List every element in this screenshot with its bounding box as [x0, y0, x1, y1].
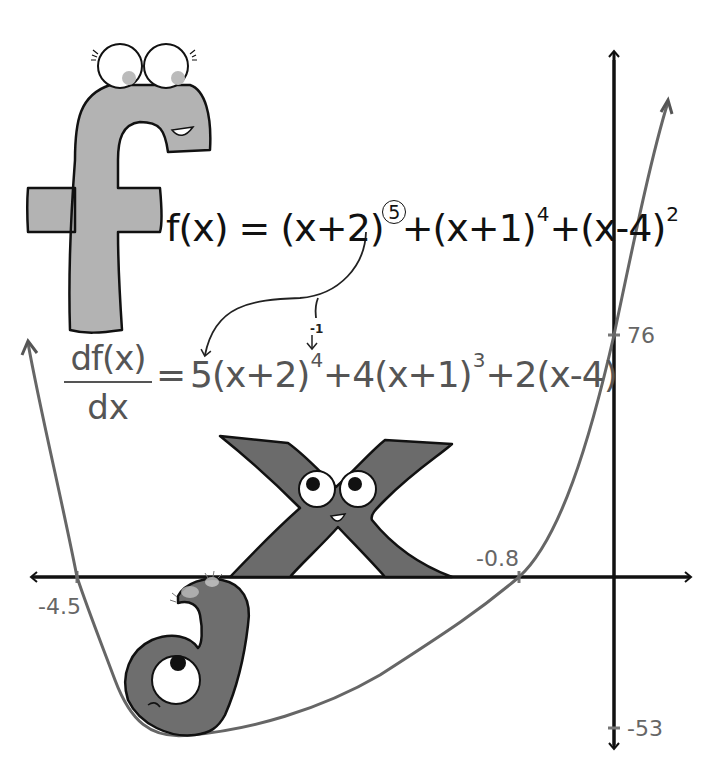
derivative-equals: = [156, 354, 186, 395]
term-1: (x+2) [281, 206, 384, 250]
d-term-1-exponent: 4 [310, 348, 323, 372]
d-term-3: +2(x-4) [485, 354, 616, 395]
derivative-numerator: df(x) [64, 338, 152, 378]
function-lhs: f(x) = [166, 206, 281, 250]
circled-exponent-5: 5 [382, 200, 406, 224]
derivative-denominator: dx [64, 387, 152, 427]
y-min-label: -53 [627, 716, 663, 741]
derivative-equation: 5(x+2)4+4(x+1)3+2(x-4) [190, 354, 617, 395]
term-3-exponent: 2 [666, 202, 679, 226]
term-2-exponent: 4 [537, 202, 550, 226]
term-2: +(x+1) [402, 206, 536, 250]
root-left-label: -4.5 [38, 594, 81, 619]
letter-x-character [220, 436, 452, 577]
root-right-label: -0.8 [476, 546, 519, 571]
f-eye-left [98, 44, 142, 88]
term-3: +(x-4) [549, 206, 665, 250]
d-term-2: +4(x+1) [323, 354, 472, 395]
d-term-2-exponent: 3 [473, 348, 486, 372]
minus-one-annotation: -1 [310, 322, 323, 336]
power-rule-annotation [205, 232, 366, 355]
d-term-1: 5(x+2) [190, 354, 309, 395]
function-equation: f(x) = (x+2)5+(x+1)4+(x-4)2 [166, 206, 679, 250]
y-intercept-label: 76 [627, 323, 655, 348]
calculus-illustration: f(x) = (x+2)5+(x+1)4+(x-4)2 df(x) dx = 5… [0, 0, 715, 784]
letter-d-character [125, 571, 249, 735]
derivative-fraction: df(x) dx [64, 338, 152, 427]
letter-f-character [27, 44, 210, 333]
fraction-bar [64, 381, 152, 383]
